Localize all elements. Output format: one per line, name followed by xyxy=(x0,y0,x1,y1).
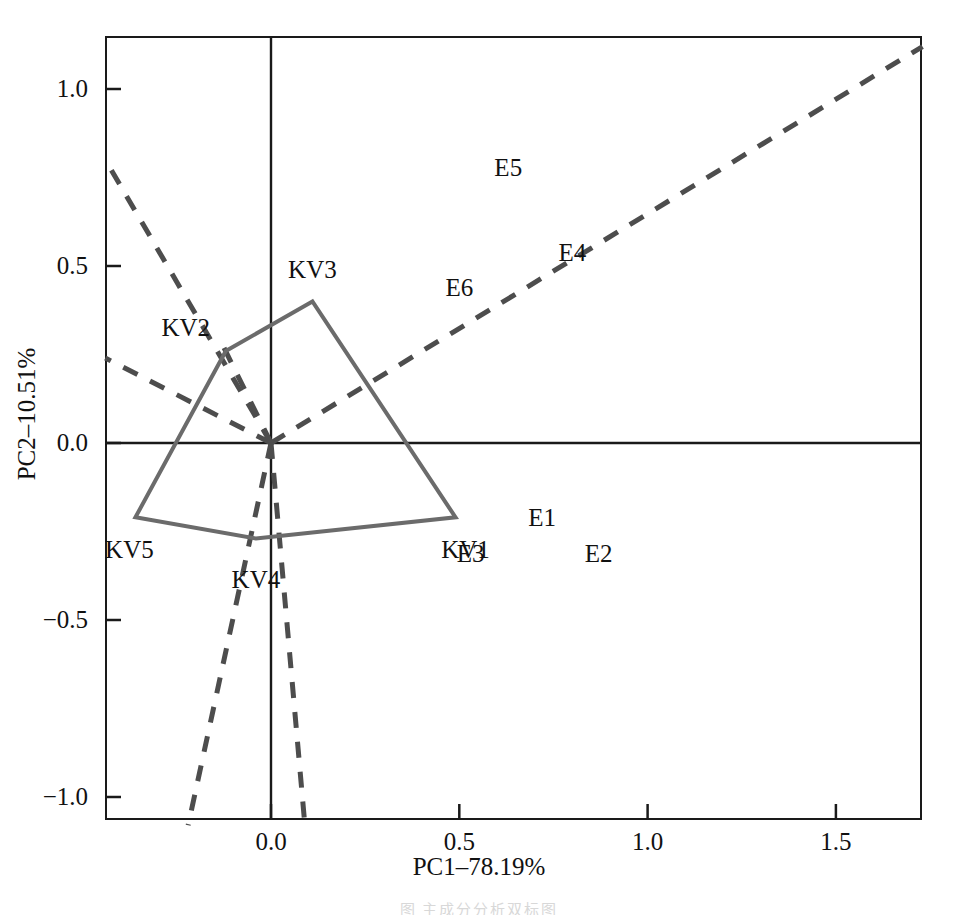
y-tick-label: −0.5 xyxy=(30,607,88,632)
x-tick-label: 1.5 xyxy=(801,829,871,854)
x-tick-label: 0.5 xyxy=(424,829,494,854)
sample-label-e4: E4 xyxy=(558,239,586,264)
sample-label-e2: E2 xyxy=(585,540,613,565)
figure-caption: 图 主成分分析双标图 xyxy=(0,898,958,915)
hull-vertex-label-kv1: KV1 xyxy=(441,537,490,562)
hull-vertex-label-kv5: KV5 xyxy=(105,537,154,562)
hull-vertex-label-kv2: KV2 xyxy=(161,314,210,339)
sample-label-e5: E5 xyxy=(494,154,522,179)
plot-drawing-layer xyxy=(0,0,958,915)
sample-label-e1: E1 xyxy=(528,505,556,530)
x-tick-label: 0.0 xyxy=(236,829,306,854)
hull-vertex-label-kv3: KV3 xyxy=(288,257,337,282)
x-tick-label: 1.0 xyxy=(613,829,683,854)
pca-biplot-figure: 1.00.50.0−0.5−1.0 0.00.51.01.5 E1E2E3E4E… xyxy=(0,0,958,915)
sample-label-e6: E6 xyxy=(445,275,473,300)
y-tick-label: −1.0 xyxy=(30,784,88,809)
y-axis-title: PC2–10.51% xyxy=(13,264,41,564)
y-tick-label: 1.0 xyxy=(30,76,88,101)
hull-vertex-label-kv4: KV4 xyxy=(232,566,281,591)
x-axis-title: PC1–78.19% xyxy=(0,853,958,881)
